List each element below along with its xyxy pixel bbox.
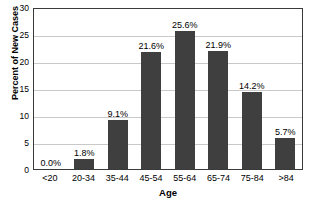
bar-data-label: 25.6%	[172, 20, 198, 30]
bar-slot: 9.1%	[101, 9, 135, 169]
bar-data-label: 5.7%	[275, 127, 296, 137]
x-tick-label: 45-54	[134, 171, 168, 185]
bar-data-label: 14.2%	[239, 81, 265, 91]
x-tick-label: 55-64	[168, 171, 202, 185]
y-tick-label: 10	[13, 111, 29, 121]
bar-slot: 5.7%	[269, 9, 303, 169]
bar-slot: 1.8%	[68, 9, 102, 169]
bar[interactable]: 9.1%	[108, 120, 128, 169]
x-tick-label: 75-84	[236, 171, 270, 185]
bar-slot: 21.6%	[135, 9, 169, 169]
bar-slot: 14.2%	[235, 9, 269, 169]
x-axis-title: Age	[33, 187, 303, 198]
x-tick-label: >84	[269, 171, 303, 185]
bar-data-label: 1.8%	[74, 148, 95, 158]
bar[interactable]: 1.8%	[74, 159, 94, 169]
y-tick-label: 5	[13, 138, 29, 148]
plot-area: 0.0%1.8%9.1%21.6%25.6%21.9%14.2%5.7%	[33, 8, 303, 170]
bar-data-label: 0.0%	[40, 158, 61, 168]
bar-data-label: 21.9%	[205, 40, 231, 50]
bar-data-label: 9.1%	[107, 109, 128, 119]
y-tick-label: 30	[13, 3, 29, 13]
y-tick-label: 20	[13, 57, 29, 67]
bar-slot: 21.9%	[202, 9, 236, 169]
x-tick-label: 20-34	[67, 171, 101, 185]
x-tick-label: <20	[33, 171, 67, 185]
bar[interactable]: 21.9%	[208, 51, 228, 169]
x-tick-label: 35-44	[101, 171, 135, 185]
bar-data-label: 21.6%	[138, 41, 164, 51]
bar[interactable]: 25.6%	[175, 31, 195, 169]
y-tick-label: 0	[13, 165, 29, 175]
x-tick-label: 65-74	[202, 171, 236, 185]
x-axis-tick-labels: <2020-3435-4445-5455-6465-7475-84>84	[33, 171, 303, 185]
bar-slot: 0.0%	[34, 9, 68, 169]
y-axis-tick-labels: 051015202530	[13, 0, 29, 205]
bar-series: 0.0%1.8%9.1%21.6%25.6%21.9%14.2%5.7%	[34, 9, 302, 169]
bar-slot: 25.6%	[168, 9, 202, 169]
bar[interactable]: 5.7%	[275, 138, 295, 169]
bar[interactable]: 21.6%	[141, 52, 161, 169]
y-tick-label: 15	[13, 84, 29, 94]
bar[interactable]: 14.2%	[242, 92, 262, 169]
y-tick-label: 25	[13, 30, 29, 40]
bar-chart-figure: Percent of New Cases 051015202530 0.0%1.…	[0, 0, 311, 205]
